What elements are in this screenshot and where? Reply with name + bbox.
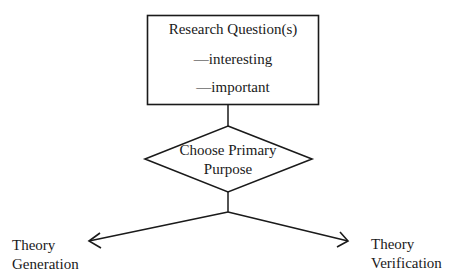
outcome-theory-generation: Theory Generation: [12, 236, 79, 274]
diagram-canvas: [0, 0, 449, 275]
criterion-interesting: —interesting: [147, 50, 319, 69]
criterion-important: —important: [147, 78, 319, 97]
outcome-right-line1: Theory: [371, 235, 442, 254]
research-question-title: Research Question(s): [147, 20, 319, 39]
outcome-theory-verification: Theory Verification: [371, 235, 442, 273]
outcome-left-line1: Theory: [12, 236, 79, 255]
branch-line-right: [228, 212, 348, 241]
outcome-right-line2: Verification: [371, 254, 442, 273]
decision-label-line2: Purpose: [160, 160, 296, 179]
decision-label-line1: Choose Primary: [160, 141, 296, 160]
branch-line-left: [89, 212, 228, 241]
decision-label: Choose Primary Purpose: [160, 141, 296, 179]
outcome-left-line2: Generation: [12, 255, 79, 274]
